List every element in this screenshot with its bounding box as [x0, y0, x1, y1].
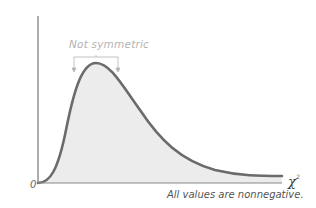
not-symmetric-annotation: Not symmetric	[69, 38, 149, 50]
squared-superscript: 2	[296, 173, 300, 180]
chi-symbol: χ	[288, 174, 296, 189]
x-axis-label: χ2	[288, 173, 300, 189]
chi-square-plot	[0, 0, 316, 208]
density-fill	[38, 63, 282, 183]
nonnegative-note: All values are nonnegative.	[167, 189, 304, 200]
origin-label: 0	[30, 179, 36, 190]
